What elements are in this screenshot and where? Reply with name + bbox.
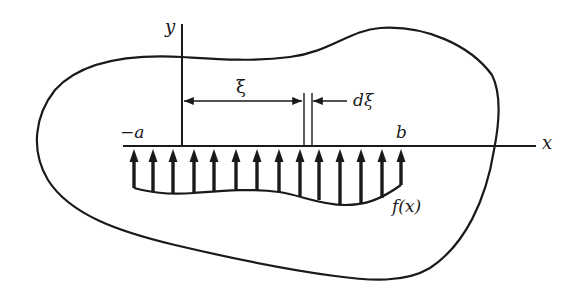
load-arrowhead-icon bbox=[378, 149, 387, 162]
dxi-label: dξ bbox=[353, 92, 373, 109]
load-arrows bbox=[130, 149, 406, 204]
y-axis-label: y bbox=[165, 18, 175, 36]
load-function-label: f(x) bbox=[392, 198, 421, 215]
load-arrowhead-icon bbox=[315, 149, 324, 162]
load-arrowhead-icon bbox=[357, 149, 366, 162]
load-diagram bbox=[0, 0, 584, 298]
x-axis-label: x bbox=[542, 134, 552, 152]
load-arrowhead-icon bbox=[190, 149, 199, 162]
load-arrowhead-icon bbox=[149, 149, 158, 162]
load-arrowhead-icon bbox=[336, 149, 345, 162]
left-limit-label: −a bbox=[120, 124, 144, 141]
load-arrowhead-icon bbox=[130, 149, 139, 162]
load-arrowhead-icon bbox=[210, 149, 219, 162]
load-arrowhead-icon bbox=[232, 149, 241, 162]
load-arrowhead-icon bbox=[275, 149, 284, 162]
load-arrowhead-icon bbox=[397, 149, 406, 162]
right-limit-label: b bbox=[396, 124, 407, 141]
load-arrowhead-icon bbox=[253, 149, 262, 162]
xi-label: ξ bbox=[236, 78, 246, 96]
load-arrowhead-icon bbox=[169, 149, 178, 162]
region-boundary bbox=[37, 28, 499, 280]
load-arrowhead-icon bbox=[296, 149, 305, 162]
